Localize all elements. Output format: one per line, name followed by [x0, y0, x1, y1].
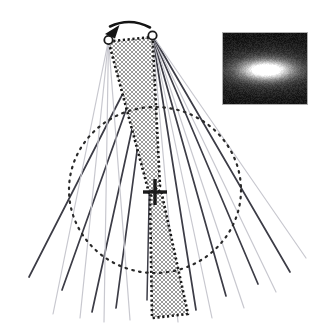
node-left — [104, 36, 112, 44]
lower-hatched-wedge — [150, 190, 188, 318]
astronomical-inset — [222, 32, 308, 105]
node-right — [148, 31, 156, 39]
motion-arrow — [105, 22, 150, 39]
astronomical-inset-canvas — [223, 33, 308, 105]
motion-arrow-curve — [110, 22, 150, 28]
figure-root — [0, 0, 333, 330]
